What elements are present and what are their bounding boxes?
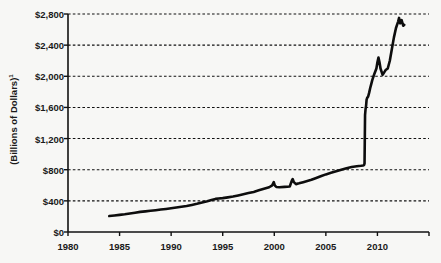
grid-lines	[68, 14, 429, 201]
x-axis-tick-label: 2010	[357, 241, 397, 252]
x-axis-tick-label: 1985	[100, 241, 140, 252]
x-axis-tick-label: 2000	[254, 241, 294, 252]
x-axis-tick-label: 1995	[203, 241, 243, 252]
series-total-assets	[109, 18, 404, 216]
axis-lines	[68, 14, 429, 232]
axis-ticks	[64, 14, 429, 236]
chart-container: (Billions of Dollars)1 $0$400$800$1,200$…	[0, 0, 441, 263]
x-axis-tick-label: 1990	[151, 241, 191, 252]
x-axis-tick-label: 1980	[48, 241, 88, 252]
x-axis-tick-label: 2005	[306, 241, 346, 252]
chart-plot-area	[0, 0, 441, 263]
data-series-line	[109, 18, 404, 216]
